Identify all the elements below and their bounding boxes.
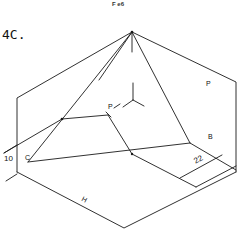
edge-apex-b (132, 32, 190, 143)
left-intersection-point (61, 118, 64, 121)
apex-point (131, 31, 134, 34)
dim-10-tick-top (4, 145, 17, 153)
p-arrow (114, 104, 120, 108)
axis-symbol-left (123, 100, 133, 107)
line-center-to-h (132, 154, 196, 187)
dim-10-tick-bottom (6, 174, 17, 181)
label-dim-10: 10 (4, 155, 13, 163)
edge-apex-center (99, 32, 132, 80)
edge-c-b (28, 143, 190, 162)
line-right-parallel (196, 166, 236, 187)
label-plane-p: P (206, 80, 211, 87)
axis-symbol-right (133, 100, 144, 106)
label-point-p: P (108, 103, 113, 110)
edge-apex-c (28, 32, 132, 162)
line-int-to-p (62, 115, 108, 119)
right-plane-outline (132, 32, 236, 172)
center-intersection-point (131, 153, 133, 155)
label-point-b: B (208, 133, 213, 140)
line-p-to-center (108, 115, 132, 154)
label-point-c: C (25, 154, 30, 161)
pyramid-planes-diagram (0, 0, 238, 229)
horizontal-plane-outline (17, 172, 236, 228)
